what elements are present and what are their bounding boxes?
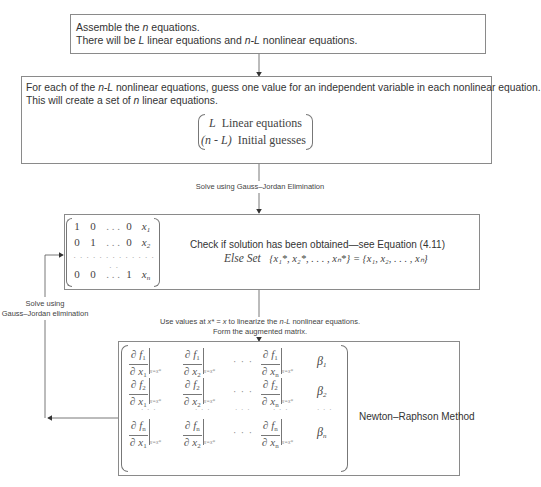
else-set-statement: Else Set {x₁*, x₂*, . . . , xₙ*} = {x₁, … <box>224 252 428 264</box>
vdots-beta: · · · <box>317 406 333 414</box>
row1-ellipsis: · · · <box>233 356 253 367</box>
vdots-col1: · · · <box>141 406 157 414</box>
matrix-cell: 0 <box>71 268 83 280</box>
initial-guess-line2: This will create a set of n linear equat… <box>26 94 218 107</box>
initial-guess-line1: For each of the n-L nonlinear equations,… <box>26 81 541 94</box>
newton-raphson-title: Newton–Raphson Method <box>359 410 475 423</box>
matrix-dots-row: . . . . . . . . . . . . . . . <box>71 250 157 270</box>
matrix-cell: . . . <box>103 268 123 280</box>
partial-fn-x1: ∂ fn ∂ x1 x=x* <box>129 419 148 452</box>
rown-ellipsis: · · · <box>233 427 253 438</box>
vector-row-linear: L Linear equations <box>209 116 302 131</box>
matrix-cell: xn <box>137 268 155 282</box>
assemble-line2: There will be L linear equations and n-L… <box>76 34 357 47</box>
assemble-equations-box: Assemble the n equations. There will be … <box>70 14 486 54</box>
matrix-cell: 1 <box>123 268 135 280</box>
vdots-ellipsis: · · · <box>235 406 251 414</box>
initial-guess-box: For each of the n-L nonlinear equations,… <box>21 76 492 164</box>
newton-raphson-box: ∂ f1 ∂ x1 x=x* ∂ f1 ∂ x2 x=x* · · · ∂ f1… <box>118 341 460 476</box>
matrix-cell: 1 <box>71 220 83 232</box>
vector-row-guesses: (n - L) Initial guesses <box>201 133 306 148</box>
linearize-label-line2: Form the augmented matrix. <box>140 327 380 337</box>
check-solution-text: Check if solution has been obtained—see … <box>190 238 445 251</box>
beta-2: β2 <box>317 384 326 399</box>
solve-gauss-jordan-label: Solve using Gauss–Jordan Elimination <box>190 182 330 192</box>
matrix-cell: x2 <box>137 236 155 250</box>
partial-fn-xn: ∂ fn ∂ xn x=x* <box>261 419 280 452</box>
linearize-label-line1: Use values at x* = x to linearize the n-… <box>140 317 380 327</box>
assemble-line1: Assemble the n equations. <box>76 21 200 34</box>
jacobian-left-paren <box>121 345 128 472</box>
vdots-col2: · · · <box>195 406 211 414</box>
matrix-cell: . . . <box>103 220 123 232</box>
matrix-cell: 0 <box>87 220 99 232</box>
beta-n: βn <box>317 425 326 440</box>
linearize-label: Use values at x* = x to linearize the n-… <box>140 317 380 337</box>
partial-f1-x2: ∂ f1 ∂ x2 x=x* <box>183 348 202 381</box>
partial-fn-x2: ∂ fn ∂ x2 x=x* <box>183 419 202 452</box>
vdots-col3: · · · <box>273 406 289 414</box>
matrix-cell: 0 <box>123 220 135 232</box>
matrix-cell: . . . <box>103 236 123 248</box>
matrix-cell: x1 <box>137 220 155 234</box>
partial-f1-x1: ∂ f1 ∂ x1 x=x* <box>129 348 148 381</box>
partial-f1-xn: ∂ f1 ∂ xn x=x* <box>261 348 280 381</box>
row2-ellipsis: · · · <box>233 386 253 397</box>
matrix-cell: 0 <box>123 236 135 248</box>
feedback-solve-label: Solve using Gauss–Jordan elimination <box>0 299 90 319</box>
beta-1: β1 <box>317 354 326 369</box>
vector-right-paren <box>306 114 313 150</box>
jacobian-right-paren <box>341 345 348 472</box>
matrix-cell: 0 <box>87 268 99 280</box>
matrix-cell: 1 <box>87 236 99 248</box>
matrix-cell: 0 <box>71 236 83 248</box>
solution-check-box: 1 0 . . . 0 x1 0 1 . . . 0 x2 . . . . . … <box>64 214 480 290</box>
